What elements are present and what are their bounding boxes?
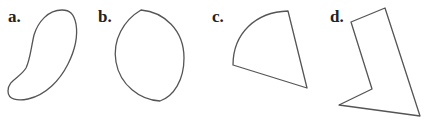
panel-d: d. bbox=[330, 7, 420, 116]
panel-a: a. bbox=[8, 7, 77, 100]
sector-shape bbox=[233, 11, 307, 88]
label-b: b. bbox=[98, 7, 112, 26]
polygon-shape bbox=[339, 8, 420, 116]
panel-c: c. bbox=[212, 7, 307, 88]
label-d: d. bbox=[330, 7, 344, 26]
shapes-figure: a. b. c. d. bbox=[0, 0, 428, 120]
lens-shape bbox=[115, 10, 184, 101]
panel-b: b. bbox=[98, 7, 184, 101]
label-c: c. bbox=[212, 7, 224, 26]
label-a: a. bbox=[8, 7, 21, 26]
